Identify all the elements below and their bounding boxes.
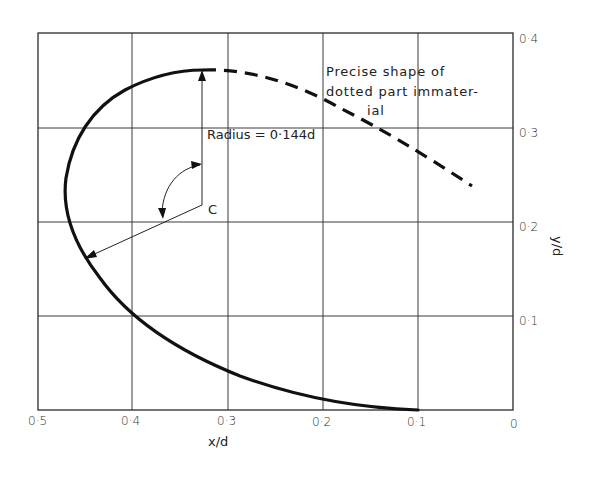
radius-construction [84,70,206,259]
y-tick: 0·3 [519,126,538,140]
arrowhead-icon [198,70,206,81]
x-tick: 0·2 [312,415,331,429]
arrowhead-icon [158,208,166,219]
y-tick: 0·4 [519,32,538,46]
x-tick: 0·4 [121,414,140,428]
y-tick: 0·1 [519,314,538,328]
x-axis-label: x/d [208,434,228,449]
note-line-2: dotted part immater- [326,84,479,99]
y-tick: 0·2 [519,220,538,234]
radius-annotation: Radius = 0·144d [207,127,315,142]
x-tick: 0·1 [407,415,426,429]
note-line-3: ial [367,103,385,118]
arrowhead-icon [191,161,202,169]
centre-label: C [208,202,217,217]
note-line-1: Precise shape of [326,64,445,79]
y-axis-ticks: 0·4 0·3 0·2 0·1 [519,32,538,328]
x-tick: 0·5 [28,414,47,428]
arrowhead-icon [84,250,97,259]
x-tick: 0 [510,417,518,431]
x-tick: 0·3 [217,414,236,428]
y-axis-label: y/d [550,236,565,256]
chart-figure: Radius = 0·144d C Precise shape of dotte… [0,0,591,477]
x-axis-ticks: 0·5 0·4 0·3 0·2 0·1 0 [28,414,518,431]
